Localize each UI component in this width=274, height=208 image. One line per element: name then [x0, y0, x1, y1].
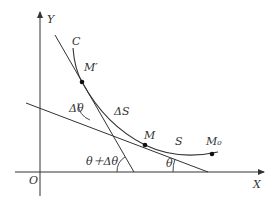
arc-delta-s-label: ΔS [113, 105, 130, 118]
y-axis-label: Y [47, 13, 56, 26]
point-m0-label: M₀ [205, 135, 222, 148]
point-m0 [210, 152, 215, 157]
origin-label: O [29, 174, 38, 187]
x-axis-label: X [252, 178, 262, 191]
arc-s-label: S [175, 135, 183, 148]
point-m [143, 143, 148, 148]
curve-label: C [72, 35, 81, 48]
point-m-prime-label: M′ [83, 61, 98, 74]
angle-theta-label: θ [166, 157, 173, 170]
angle-theta-plus-delta-label: θ＋Δθ [86, 155, 119, 168]
angle-delta-theta-label: Δθ [68, 102, 84, 115]
point-m-prime [80, 80, 85, 85]
diagram-canvas: Y X O C M′ M M₀ ΔS S Δθ θ＋Δθ θ [0, 0, 274, 208]
tangent-line-at-m-prime [55, 35, 134, 172]
angle-arc-theta [173, 159, 175, 172]
point-m-label: M [143, 129, 156, 142]
